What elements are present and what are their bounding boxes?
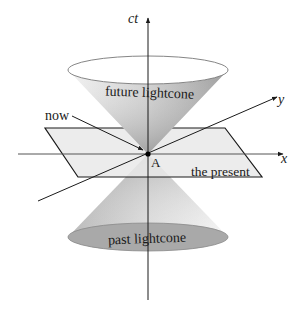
ct-axis-label: ct [128, 11, 139, 26]
diagram-canvas: ct x y future lightcone past lightcone t… [0, 0, 303, 311]
future-lightcone-label: future lightcone [105, 84, 195, 102]
event-point-a [145, 151, 150, 156]
present-plane-label: the present [191, 164, 250, 179]
lightcone-diagram: ct x y future lightcone past lightcone t… [0, 0, 303, 311]
now-label: now [45, 108, 70, 123]
x-axis-label: x [280, 151, 288, 166]
event-point-label: A [151, 155, 161, 170]
y-axis-label: y [276, 92, 285, 107]
past-lightcone-label: past lightcone [108, 230, 187, 248]
